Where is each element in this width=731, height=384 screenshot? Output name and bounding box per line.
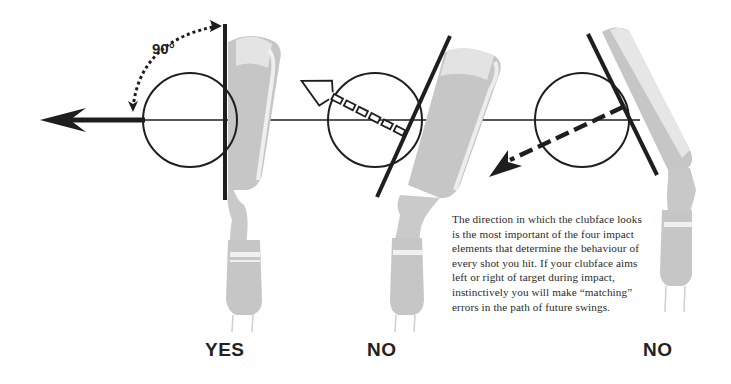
caption-text: The direction in which the clubface look…	[452, 212, 642, 314]
verdict-label-closed: NO	[643, 339, 673, 361]
angle-label: 90°	[152, 40, 175, 57]
arrowhead-down-left-icon	[489, 150, 522, 177]
diagram-canvas	[0, 0, 731, 384]
ball-flight-arrow-3	[510, 107, 623, 160]
panel-square	[40, 20, 237, 200]
ball-flight-arrow-2	[295, 68, 410, 145]
verdict-label-open: NO	[367, 339, 397, 361]
golf-clubface-diagram: 90° YES NO NO The direction in which the…	[0, 0, 731, 384]
club-square	[226, 36, 281, 332]
arc-arrowhead-icon	[128, 101, 138, 112]
verdict-label-square: YES	[205, 339, 245, 361]
right-angle-arc	[133, 26, 218, 108]
